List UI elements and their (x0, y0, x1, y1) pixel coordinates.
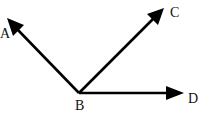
arrowhead-d-icon (166, 86, 184, 100)
ray-ba (7, 18, 79, 93)
angle-diagram: A C B D (0, 0, 213, 116)
label-b: B (75, 98, 84, 113)
label-d: D (188, 91, 198, 106)
ray-bd (79, 86, 184, 100)
label-a: A (0, 26, 11, 41)
label-c: C (170, 5, 179, 20)
ray-bc (79, 8, 164, 93)
